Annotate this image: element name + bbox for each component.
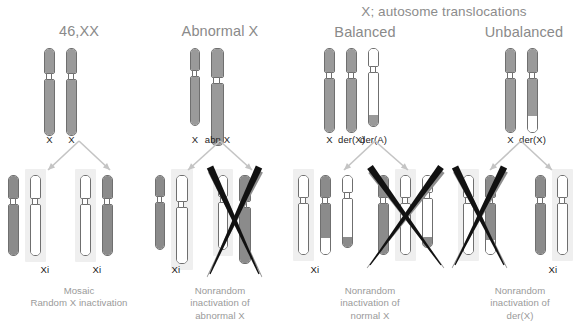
- chromosome-balanced-translocation-cell0-der-x: [320, 175, 331, 255]
- centromere: [10, 198, 16, 205]
- chromosome-short-arm: [368, 48, 379, 67]
- chromosome-band: [81, 176, 90, 199]
- centromere: [465, 197, 471, 204]
- chromosome-short-arm: [346, 48, 357, 73]
- chromosome-long-arm: [320, 203, 331, 255]
- chromosome-band: [240, 176, 250, 202]
- caption-unbalanced-translocation: Nonrandom inactivation of der(X): [450, 285, 588, 322]
- chromosome-balanced-translocation-cell1-der-a: [422, 175, 433, 248]
- chromosome-band: [321, 204, 330, 238]
- chromosome-short-arm: [44, 48, 55, 74]
- chromosome-band: [506, 49, 515, 73]
- chromosome-balanced-translocation-parent-der-a: [368, 48, 379, 127]
- chromosome-short-arm: [378, 175, 389, 198]
- chromosome-band: [177, 176, 187, 202]
- centromere: [344, 192, 350, 199]
- chromosome-normal-female-cell0-xi: [30, 175, 41, 256]
- column-title-normal-female: 46,XX: [19, 23, 139, 39]
- chromosome-short-arm: [176, 175, 188, 202]
- chromosome-band: [347, 49, 356, 73]
- chromosome-band: [45, 49, 54, 74]
- karyotype-label-abnormal-x-1: abn X: [188, 134, 248, 145]
- chromosome-band: [191, 77, 199, 126]
- centromere: [82, 198, 88, 205]
- centromere: [559, 197, 565, 204]
- centromere: [220, 196, 225, 203]
- centromere: [322, 197, 328, 204]
- chromosome-long-arm: [102, 204, 113, 256]
- chromosome-short-arm: [8, 175, 19, 199]
- chromosome-abnormal-x-cell0-x: [155, 175, 165, 250]
- centromere: [326, 72, 332, 79]
- xi-label: Xi: [30, 264, 60, 275]
- chromosome-band: [240, 208, 250, 264]
- chromosome-band: [156, 176, 164, 197]
- chromosome-band: [464, 176, 473, 198]
- chromosome-long-arm: [485, 203, 496, 255]
- chromosome-unbalanced-translocation-cell1-x: [535, 175, 546, 255]
- chromosome-balanced-translocation-parent-der-x: [346, 48, 357, 133]
- centromere: [213, 77, 220, 84]
- chromosome-band: [81, 205, 90, 256]
- chromosome-long-arm: [30, 204, 41, 256]
- chromosome-band: [379, 204, 388, 255]
- centromere: [300, 197, 306, 204]
- chromosome-long-arm: [342, 198, 353, 248]
- chromosome-band: [321, 238, 330, 255]
- chromosome-balanced-translocation-cell1-x: [378, 175, 389, 255]
- centromere: [32, 198, 38, 205]
- chromosome-band: [369, 73, 378, 115]
- chromosome-band: [321, 176, 330, 198]
- chromosome-short-arm: [298, 175, 309, 198]
- chromosome-band: [506, 79, 515, 133]
- chromosome-balanced-translocation-cell0-der-a: [342, 175, 353, 248]
- centromere: [104, 198, 110, 205]
- chromosome-band: [558, 176, 567, 198]
- chromosome-short-arm: [400, 175, 411, 198]
- chromosome-unbalanced-translocation-cell1-der-xi: [557, 175, 568, 255]
- chromosome-long-arm: [527, 78, 538, 133]
- chromosome-balanced-translocation-parent-x: [324, 48, 335, 133]
- chromosome-unbalanced-translocation-parent-x: [505, 48, 516, 133]
- chromosome-short-arm: [190, 48, 200, 71]
- chromosome-abnormal-x-parent-x: [190, 48, 200, 126]
- chromosome-long-arm: [155, 202, 165, 250]
- chromosome-normal-female-parent-x: [44, 48, 55, 136]
- chromosome-long-arm: [298, 203, 309, 255]
- chromosome-short-arm: [239, 175, 251, 202]
- chromosome-short-arm: [342, 175, 353, 193]
- chromosome-short-arm: [485, 175, 496, 198]
- centromere: [380, 197, 386, 204]
- chromosome-abnormal-x-parent-abn-x: [211, 48, 224, 146]
- chromosome-long-arm: [463, 203, 474, 255]
- chromosome-band: [528, 116, 537, 133]
- chromosome-band: [343, 176, 352, 193]
- chromosome-long-arm: [324, 78, 335, 133]
- chromosome-long-arm: [176, 207, 188, 264]
- chromosome-band: [536, 204, 545, 255]
- chromosome-long-arm: [557, 203, 568, 255]
- centromere: [529, 72, 535, 79]
- xi-label: Xi: [300, 264, 330, 275]
- chromosome-long-arm: [535, 203, 546, 255]
- chromosome-normal-female-parent-x: [66, 48, 77, 136]
- centromere: [348, 72, 354, 79]
- chromosome-band: [558, 204, 567, 255]
- chromosome-band: [9, 205, 18, 256]
- chromosome-short-arm: [218, 175, 228, 197]
- chromosome-band: [325, 49, 334, 73]
- chromosome-band: [219, 176, 227, 197]
- chromosome-band: [528, 49, 537, 73]
- centromere: [157, 196, 162, 203]
- chromosome-band: [45, 80, 54, 136]
- centromere: [402, 197, 408, 204]
- chromosome-long-arm: [505, 78, 516, 133]
- chromosome-balanced-translocation-cell1-der-xi: [400, 175, 411, 255]
- chromosome-band: [486, 204, 495, 240]
- chromosome-long-arm: [422, 198, 433, 248]
- chromosome-unbalanced-translocation-parent-der-x: [527, 48, 538, 133]
- caption-balanced-translocation: Nonrandom inactivation of normal X: [300, 285, 440, 322]
- centromere: [370, 66, 376, 73]
- chromosome-normal-female-cell1-xi: [80, 175, 91, 256]
- chromosome-long-arm: [400, 203, 411, 255]
